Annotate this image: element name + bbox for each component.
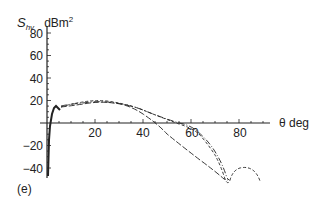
y-tick-label: 40: [30, 72, 44, 86]
series-cluster-origin: [48, 106, 60, 176]
x-tick-label: 20: [88, 126, 102, 140]
y-tick-label: 60: [30, 49, 44, 63]
series-short-dash: [61, 101, 260, 183]
y-axis-label: ShvdBm2: [17, 15, 74, 32]
y-tick-label: −20: [23, 139, 44, 153]
y-tick-label: 20: [30, 94, 44, 108]
x-tick-label: 80: [233, 126, 247, 140]
x-tick-label: 40: [136, 126, 150, 140]
series-dash-dot: [61, 102, 229, 180]
y-tick-label: −40: [23, 162, 44, 176]
chart: 80 60 40 20 −20 −40 20 40 60 80 ShvdBm2 …: [0, 0, 323, 206]
panel-label: (e): [17, 182, 32, 196]
series-long-dash: [61, 102, 228, 180]
x-axis-label: θ deg: [279, 116, 309, 130]
